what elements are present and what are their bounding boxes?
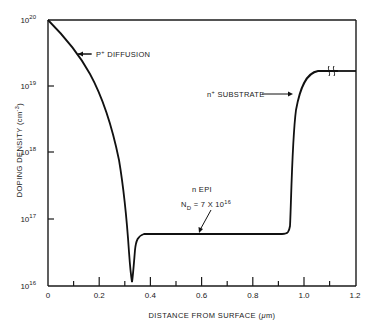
- y-tick-1e19: 1019: [20, 80, 36, 91]
- y-axis-ticks: [48, 86, 54, 219]
- y-tick-1e20: 1020: [20, 14, 36, 25]
- x-tick-0.6: 0.6: [196, 291, 208, 300]
- x-tick-0.4: 0.4: [145, 291, 157, 300]
- x-tick-1.2: 1.2: [349, 291, 361, 300]
- x-tick-0.8: 0.8: [247, 291, 259, 300]
- y-axis-title: DOPING DENSITY (cm-3): [14, 103, 24, 198]
- annotation-n-epi: n EPI ND = 7 X 1016: [181, 185, 231, 233]
- annotation-n-substrate: n+ SUBSTRATE: [207, 89, 293, 99]
- doping-curve: [48, 20, 338, 282]
- x-tick-1.0: 1.0: [298, 291, 310, 300]
- p-diffusion-label: P+ DIFFUSION: [96, 49, 150, 59]
- x-axis-title: DISTANCE FROM SURFACE (μm): [149, 311, 276, 320]
- x-axis-ticks: [74, 277, 330, 286]
- x-tick-labels: 0 0.2 0.4 0.6 0.8 1.0 1.2: [46, 291, 361, 300]
- x-tick-0: 0: [46, 291, 51, 300]
- nd-label: ND = 7 X 1016: [181, 199, 231, 211]
- plot-frame: [48, 20, 356, 286]
- doping-profile-chart: 0 0.2 0.4 0.6 0.8 1.0 1.2 1020 1019 1018…: [0, 0, 376, 329]
- x-tick-0.2: 0.2: [94, 291, 106, 300]
- n-substrate-label: n+ SUBSTRATE: [207, 89, 265, 99]
- y-tick-1e16: 1016: [20, 280, 36, 291]
- n-epi-label: n EPI: [192, 185, 212, 194]
- y-tick-1e17: 1017: [20, 213, 36, 224]
